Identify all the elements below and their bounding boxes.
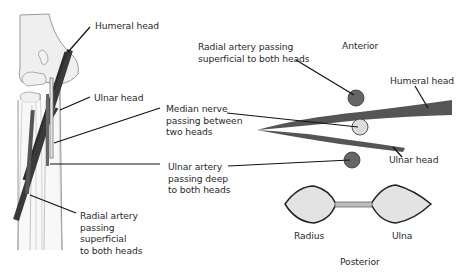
label-ulnar-artery: Ulnar artery passing deep to both heads	[168, 161, 230, 196]
leader-median-nerve-left	[54, 108, 160, 143]
interosseous-membrane	[335, 202, 372, 207]
leader-humeral-head-left	[68, 27, 90, 52]
label-humeral-head-right: Humeral head	[390, 75, 454, 87]
pronator-teres-diagram: Humeral head Ulnar head Radial artery pa…	[0, 0, 470, 275]
label-ulnar-head-left: Ulnar head	[94, 92, 143, 104]
label-posterior: Posterior	[340, 256, 380, 268]
trochlea	[22, 72, 46, 86]
label-median-nerve: Median nerve passing between two heads	[166, 103, 242, 138]
label-humeral-head-left: Humeral head	[95, 20, 159, 32]
leader-radial-artery-right	[296, 60, 354, 95]
radius-cross-section	[285, 186, 336, 223]
median-nerve-left	[50, 78, 53, 158]
ulna-cross-section	[371, 185, 431, 223]
label-radius: Radius	[294, 230, 324, 242]
ulnar-head-muscle	[257, 130, 405, 152]
label-radial-artery-right: Radial artery passing superficial to bot…	[198, 41, 310, 64]
label-anterior: Anterior	[342, 40, 378, 52]
label-ulnar-head-right: Ulnar head	[389, 154, 438, 166]
ulnar-artery-left	[46, 94, 49, 166]
leader-ulnar-artery-right	[228, 160, 350, 166]
leader-ulnar-head-left	[60, 97, 90, 110]
label-ulna: Ulna	[392, 230, 412, 242]
elbow-illustration	[16, 14, 90, 250]
label-radial-artery-left: Radial artery passing superficial to bot…	[80, 210, 142, 256]
